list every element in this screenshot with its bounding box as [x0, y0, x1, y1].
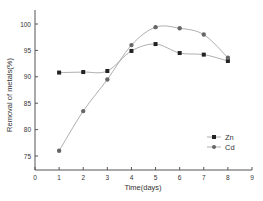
- y-tick-label: 100: [20, 21, 31, 28]
- axes: 75808590951000123456789: [20, 10, 254, 181]
- y-tick-label: 90: [24, 73, 32, 80]
- line-chart: 75808590951000123456789 ZnCd Removal of …: [0, 0, 263, 201]
- x-tick-label: 4: [130, 174, 134, 181]
- legend: ZnCd: [207, 133, 235, 152]
- series-cd: [57, 25, 230, 153]
- data-point-square: [202, 53, 206, 57]
- legend-item-cd: Cd: [207, 143, 235, 152]
- data-point-square: [178, 51, 182, 55]
- data-point-circle: [129, 43, 133, 47]
- x-tick-label: 6: [178, 174, 182, 181]
- x-tick-label: 7: [202, 174, 206, 181]
- y-axis-label: Removal of metals(%): [5, 58, 14, 132]
- data-point-circle: [202, 32, 206, 36]
- x-tick-label: 3: [106, 174, 110, 181]
- x-tick-label: 2: [81, 174, 85, 181]
- x-tick-label: 9: [250, 174, 254, 181]
- data-point-circle: [105, 77, 109, 81]
- data-point-circle: [153, 25, 157, 29]
- x-tick-label: 8: [226, 174, 230, 181]
- x-tick-label: 1: [57, 174, 61, 181]
- data-point-circle: [226, 56, 230, 60]
- series-line: [59, 26, 228, 151]
- data-point-square: [129, 49, 133, 53]
- legend-label: Zn: [225, 133, 234, 142]
- y-tick-label: 95: [24, 47, 32, 54]
- legend-circle-icon: [212, 145, 216, 149]
- legend-label: Cd: [225, 143, 235, 152]
- data-point-square: [57, 71, 61, 75]
- x-axis-label: Time(days): [124, 183, 162, 192]
- legend-square-icon: [212, 135, 216, 139]
- data-point-circle: [57, 149, 61, 153]
- data-point-square: [105, 69, 109, 73]
- series-line: [59, 44, 228, 73]
- y-tick-label: 85: [24, 100, 32, 107]
- data-point-circle: [177, 26, 181, 30]
- data-point-square: [154, 42, 158, 46]
- data-point-square: [81, 70, 85, 74]
- data-point-circle: [81, 109, 85, 113]
- y-tick-label: 80: [24, 126, 32, 133]
- y-tick-label: 75: [24, 153, 32, 160]
- series-zn: [57, 42, 230, 75]
- x-tick-label: 5: [154, 174, 158, 181]
- series-group: [57, 25, 230, 153]
- x-tick-label: 0: [33, 174, 37, 181]
- legend-item-zn: Zn: [207, 133, 234, 142]
